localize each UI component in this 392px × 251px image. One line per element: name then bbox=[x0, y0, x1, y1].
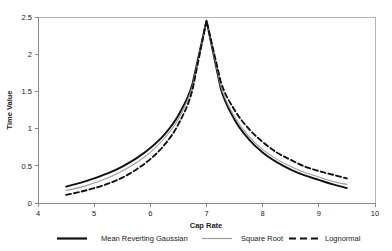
legend-label: Lognormal bbox=[325, 234, 361, 243]
series-line bbox=[66, 21, 347, 191]
plot-frame bbox=[38, 17, 375, 203]
legend-label: Square Root bbox=[241, 234, 284, 243]
x-tick-label: 9 bbox=[317, 209, 321, 218]
y-tick-label: 2 bbox=[28, 50, 32, 59]
y-tick-label: 1 bbox=[28, 124, 32, 133]
time-value-vs-cap-rate-chart: 00.511.522.5 45678910 Cap Rate Time Valu… bbox=[0, 0, 392, 251]
x-tick-label: 8 bbox=[261, 209, 265, 218]
x-tick-label: 7 bbox=[204, 209, 208, 218]
x-axis-ticks: 45678910 bbox=[36, 203, 379, 218]
x-tick-label: 10 bbox=[371, 209, 379, 218]
x-axis-title: Cap Rate bbox=[190, 221, 223, 230]
y-tick-label: 0 bbox=[28, 199, 32, 208]
x-tick-label: 5 bbox=[92, 209, 96, 218]
x-tick-label: 4 bbox=[36, 209, 40, 218]
chart-container: 00.511.522.5 45678910 Cap Rate Time Valu… bbox=[0, 0, 392, 251]
axes bbox=[38, 17, 375, 203]
legend: Mean Reverting GaussianSquare RootLognor… bbox=[57, 234, 361, 243]
y-axis-ticks: 00.511.522.5 bbox=[22, 13, 38, 208]
series-line bbox=[66, 21, 347, 188]
x-tick-label: 6 bbox=[148, 209, 152, 218]
legend-label: Mean Reverting Gaussian bbox=[101, 234, 188, 243]
y-tick-label: 0.5 bbox=[22, 162, 32, 171]
y-tick-label: 1.5 bbox=[22, 87, 32, 96]
y-tick-label: 2.5 bbox=[22, 13, 32, 22]
y-axis-title: Time Value bbox=[5, 90, 14, 129]
data-series bbox=[66, 21, 347, 195]
series-line bbox=[66, 21, 347, 195]
